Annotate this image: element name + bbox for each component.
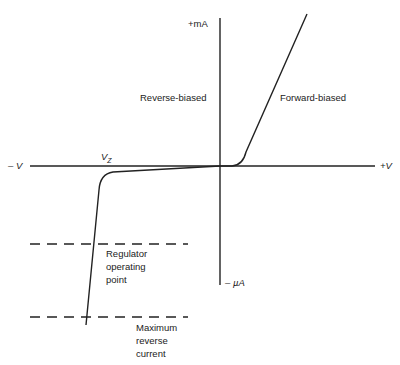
- y-positive-label: +mA: [188, 17, 208, 30]
- vz-label: VZ: [101, 150, 112, 167]
- y-negative-label: – µA: [225, 276, 245, 289]
- forward-curve: [220, 14, 307, 166]
- characteristic-plot: [0, 0, 400, 365]
- x-positive-label: +V: [380, 159, 392, 172]
- x-negative-label: – V: [8, 159, 22, 172]
- max-current-label: Maximum reverse current: [136, 321, 177, 360]
- reverse-curve: [86, 166, 220, 325]
- forward-region-label: Forward-biased: [280, 91, 346, 104]
- vz-subscript: Z: [107, 157, 111, 164]
- operating-point-label: Regulator operating point: [106, 247, 147, 286]
- reverse-region-label: Reverse-biased: [140, 91, 207, 104]
